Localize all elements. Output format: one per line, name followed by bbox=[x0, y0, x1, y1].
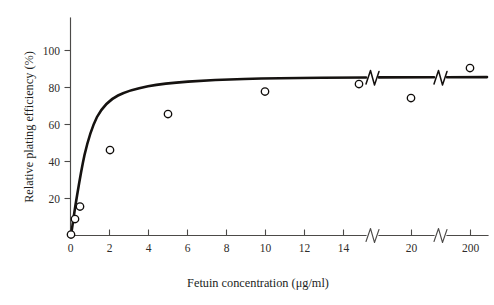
x-tick-label-0: 0 bbox=[68, 242, 74, 254]
x-axis-title: Fetuin concentration (μg/ml) bbox=[187, 276, 329, 290]
data-point-8 bbox=[466, 64, 473, 71]
x-tick-label-4: 4 bbox=[146, 242, 152, 254]
x-axis: 0 2 4 6 8 10 12 14 20 200 Fetuin concent… bbox=[68, 229, 488, 291]
x-axis-ticks bbox=[110, 230, 471, 236]
x-axis-tick-labels: 0 2 4 6 8 10 12 14 20 200 bbox=[68, 242, 480, 254]
y-tick-label-100: 100 bbox=[43, 45, 61, 57]
y-tick-label-40: 40 bbox=[49, 156, 61, 168]
y-axis: 100 80 60 40 20 Relative plating efficie… bbox=[22, 18, 71, 236]
x-axis-break-icon-2 bbox=[434, 229, 447, 243]
curve-segment-1 bbox=[71, 78, 366, 236]
x-tick-label-10: 10 bbox=[260, 242, 272, 254]
curve-break-icon-1 bbox=[366, 71, 379, 86]
figure-container: 100 80 60 40 20 Relative plating efficie… bbox=[0, 0, 494, 305]
fitted-curve-group bbox=[71, 71, 487, 236]
x-tick-label-20: 20 bbox=[406, 242, 418, 254]
data-point-2 bbox=[76, 203, 83, 210]
y-tick-label-20: 20 bbox=[49, 193, 61, 205]
x-tick-label-200: 200 bbox=[462, 242, 480, 254]
data-point-7 bbox=[407, 94, 414, 101]
y-tick-label-60: 60 bbox=[49, 119, 61, 131]
curve-break-icon-2 bbox=[434, 71, 447, 86]
x-tick-label-12: 12 bbox=[299, 242, 311, 254]
data-point-6 bbox=[355, 80, 362, 87]
y-axis-tick-labels: 100 80 60 40 20 bbox=[43, 45, 61, 205]
x-tick-label-6: 6 bbox=[185, 242, 191, 254]
x-tick-label-14: 14 bbox=[338, 242, 350, 254]
y-axis-title: Relative plating efficiency (%) bbox=[22, 51, 36, 203]
data-point-1 bbox=[71, 215, 78, 222]
chart-canvas: 100 80 60 40 20 Relative plating efficie… bbox=[0, 0, 494, 305]
y-tick-label-80: 80 bbox=[49, 82, 61, 94]
data-point-3 bbox=[106, 146, 113, 153]
x-tick-label-8: 8 bbox=[224, 242, 230, 254]
data-point-0 bbox=[67, 231, 74, 238]
x-tick-label-2: 2 bbox=[107, 242, 113, 254]
data-point-4 bbox=[164, 110, 171, 117]
x-axis-break-icon-1 bbox=[366, 229, 379, 243]
y-axis-ticks bbox=[65, 51, 71, 199]
data-point-5 bbox=[261, 88, 268, 95]
